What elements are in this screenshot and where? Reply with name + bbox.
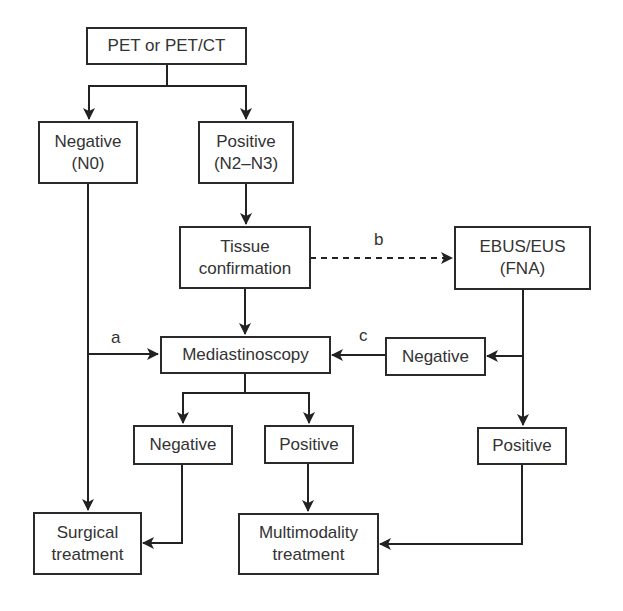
- node-pet: PET or PET/CT: [86, 27, 247, 65]
- node-ebus-eus: EBUS/EUS (FNA): [454, 226, 591, 290]
- node-sublabel: treatment: [52, 544, 124, 566]
- edge-pet-positive: [167, 86, 246, 119]
- node-label: Positive: [279, 434, 339, 456]
- edge-pet-negative: [89, 64, 167, 119]
- node-ebus-positive: Positive: [477, 427, 567, 465]
- edge-med-positive: [245, 393, 309, 423]
- node-sublabel: (N2–N3): [214, 153, 278, 175]
- node-sublabel: (FNA): [500, 258, 545, 280]
- node-label: Surgical: [57, 522, 118, 544]
- node-label: Mediastinoscopy: [182, 344, 309, 366]
- edge-label-a: a: [111, 328, 120, 348]
- node-sublabel: treatment: [273, 544, 345, 566]
- node-ebus-negative: Negative: [385, 337, 486, 376]
- node-positive-n2n3: Positive (N2–N3): [198, 121, 294, 184]
- node-label: Negative: [149, 434, 216, 456]
- node-med-positive: Positive: [264, 425, 354, 464]
- node-med-negative: Negative: [133, 425, 233, 465]
- node-sublabel: confirmation: [199, 258, 292, 280]
- edge-mednegative-surgical: [143, 464, 182, 543]
- node-surgical-treatment: Surgical treatment: [33, 512, 142, 575]
- node-mediastinoscopy: Mediastinoscopy: [160, 336, 331, 374]
- node-multimodality-treatment: Multimodality treatment: [238, 513, 379, 575]
- edge-med-negative: [183, 373, 245, 423]
- node-sublabel: (N0): [71, 153, 104, 175]
- node-label: Negative: [54, 131, 121, 153]
- node-label: Negative: [402, 346, 469, 368]
- node-label: Positive: [216, 131, 276, 153]
- edge-ebuspositive-multimodality: [380, 464, 522, 544]
- node-negative-n0: Negative (N0): [38, 121, 138, 184]
- node-label: Tissue: [220, 236, 269, 258]
- node-label: Multimodality: [259, 522, 358, 544]
- node-label: Positive: [492, 435, 552, 457]
- node-tissue-confirmation: Tissue confirmation: [179, 226, 311, 289]
- edge-label-c: c: [359, 326, 368, 346]
- node-pet-label: PET or PET/CT: [108, 35, 226, 57]
- node-label: EBUS/EUS: [480, 236, 566, 258]
- edge-label-b: b: [374, 230, 383, 250]
